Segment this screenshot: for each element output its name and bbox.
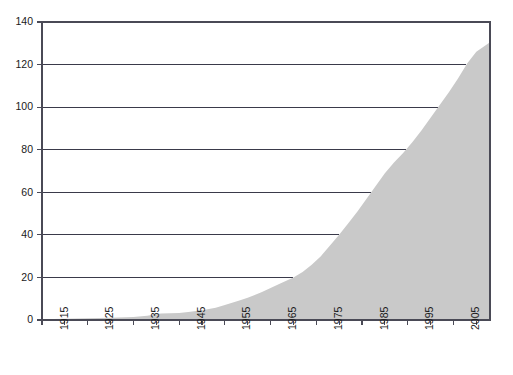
x-tick-label-1925: 1925	[103, 306, 115, 330]
y-tick-label-20: 20	[21, 271, 33, 283]
area-chart: 020406080100120140 191519251935194519551…	[0, 0, 513, 375]
x-tick-label-1965: 1965	[286, 306, 298, 330]
x-tick-label-1915: 1915	[58, 306, 70, 330]
y-tick-label-80: 80	[21, 143, 33, 155]
x-tick-label-1975: 1975	[332, 306, 344, 330]
y-tick-label-40: 40	[21, 228, 33, 240]
y-tick-label-0: 0	[27, 313, 33, 325]
x-tick-label-1935: 1935	[149, 306, 161, 330]
x-tick-label-2005: 2005	[469, 306, 481, 330]
y-tick-label-100: 100	[15, 100, 33, 112]
y-tick-label-120: 120	[15, 58, 33, 70]
y-axis: 020406080100120140	[15, 15, 42, 325]
y-tick-label-60: 60	[21, 186, 33, 198]
x-tick-label-1945: 1945	[195, 306, 207, 330]
x-tick-label-1985: 1985	[378, 306, 390, 330]
chart-canvas: 020406080100120140 191519251935194519551…	[0, 0, 513, 375]
x-tick-label-1995: 1995	[423, 306, 435, 330]
x-tick-label-1955: 1955	[240, 306, 252, 330]
y-tick-label-140: 140	[15, 15, 33, 27]
